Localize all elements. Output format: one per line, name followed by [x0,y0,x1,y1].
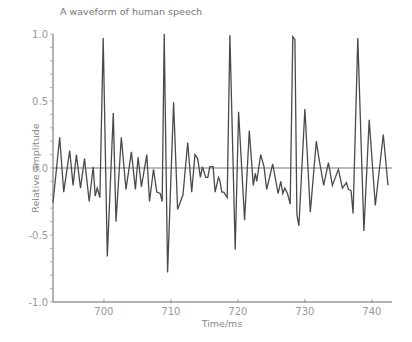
waveform-chart: A waveform of human speech -1.0-0.50.00.… [0,0,412,342]
y-tick-label: -1.0 [28,297,48,308]
y-tick-label: 1.0 [32,29,48,40]
y-tick-label: 0.5 [32,96,48,107]
x-tick-label: 700 [94,306,113,317]
x-tick-label: 720 [228,306,247,317]
x-axis-title: Time/ms [201,318,243,329]
x-tick-label: 710 [161,306,180,317]
x-axis: 700710720730740 [53,299,392,317]
y-tick-label: -0.5 [28,230,48,241]
chart-title: A waveform of human speech [60,6,202,17]
x-tick-label: 740 [362,306,381,317]
waveform-line [53,34,388,273]
y-axis-title: Relative amplitude [30,123,41,212]
x-tick-label: 730 [295,306,314,317]
